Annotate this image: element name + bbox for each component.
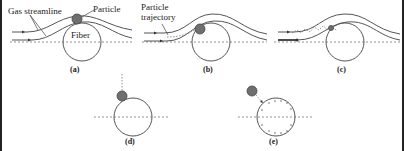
panel-b: Particle trajectory (b) [141,2,267,74]
particle [72,14,82,24]
gas-streamline-lower [278,22,400,40]
panel-d: (d) [94,74,170,146]
arrow-icon [22,31,25,34]
gas-streamline-label: Gas streamline [8,6,62,16]
caption-b: (b) [203,65,213,74]
fiber-label: Fiber [71,30,90,40]
panel-e: (e) [238,86,314,146]
particle [329,26,334,31]
panel-a: Gas streamline Particle Fiber (a) [8,4,132,74]
particle [117,91,127,101]
particle-trajectory-label-line2: trajectory [141,12,176,22]
arrow-icon [28,39,31,42]
figure-frame: Gas streamline Particle Fiber (a) Partic… [0,0,404,151]
particle [247,86,257,96]
arrow-icon [287,31,290,34]
caption-d: (d) [125,137,135,146]
streamline-marker [296,39,299,42]
caption-c: (c) [337,65,346,74]
leader-line [30,15,46,36]
particle-trajectory-label-line1: Particle [141,2,169,12]
particle [195,24,205,34]
caption-e: (e) [269,137,278,146]
attraction-trajectory [256,95,261,101]
panel-c: (c) [274,14,400,74]
caption-a: (a) [70,65,80,74]
arrow-icon [154,32,157,35]
filtration-mechanisms-diagram: Gas streamline Particle Fiber (a) Partic… [2,0,404,151]
leader-line [30,15,38,30]
particle-label: Particle [93,4,121,14]
